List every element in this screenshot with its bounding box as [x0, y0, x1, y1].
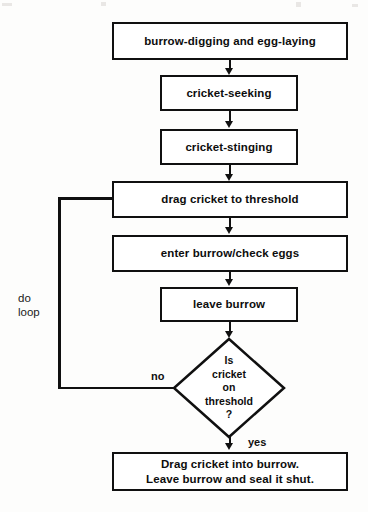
node-label: burrow-digging and egg-laying [140, 34, 320, 48]
final-line-2: Leave burrow and seal it shut. [146, 473, 314, 485]
node-label: drag cricket to threshold [157, 192, 302, 206]
edge-label-yes: yes [248, 436, 266, 448]
final-line-1: Drag cricket into burrow. [161, 458, 299, 470]
node-label: leave burrow [189, 297, 269, 311]
scan-artifact [296, 2, 301, 7]
node-label: cricket-stinging [181, 140, 276, 154]
node-leave-burrow: leave burrow [160, 287, 298, 322]
scan-artifact [101, 2, 106, 6]
node-label: Drag cricket into burrow. Leave burrow a… [142, 457, 318, 485]
node-cricket-stinging: cricket-stinging [160, 129, 298, 165]
do-loop-label: do loop [18, 291, 40, 320]
node-drag-to-threshold: drag cricket to threshold [112, 181, 348, 218]
loop-back-vertical-line [58, 197, 61, 389]
scan-artifact [2, 3, 12, 6]
node-enter-burrow: enter burrow/check eggs [112, 235, 348, 272]
node-burrow-digging: burrow-digging and egg-laying [112, 22, 348, 60]
node-label: cricket-seeking [182, 86, 275, 100]
edge-label-no: no [151, 370, 164, 382]
diamond-shape-icon [172, 337, 286, 439]
node-label: enter burrow/check eggs [157, 246, 303, 260]
arrow-head-icon [225, 174, 233, 181]
loop-back-top-line [58, 197, 114, 200]
arrow-head-icon [225, 68, 233, 75]
node-cricket-seeking: cricket-seeking [160, 75, 298, 111]
scan-artifact [352, 4, 358, 7]
node-decision-diamond: Is cricket on threshold ? [172, 337, 286, 439]
node-final-seal-burrow: Drag cricket into burrow. Leave burrow a… [112, 452, 348, 491]
arrow-head-icon [225, 227, 233, 234]
arrow-head-icon [225, 443, 233, 450]
arrow-head-icon [225, 121, 233, 128]
flowchart-figure: burrow-digging and egg-laying cricket-se… [0, 0, 368, 512]
no-branch-line [58, 387, 176, 390]
arrow-head-icon [225, 279, 233, 286]
